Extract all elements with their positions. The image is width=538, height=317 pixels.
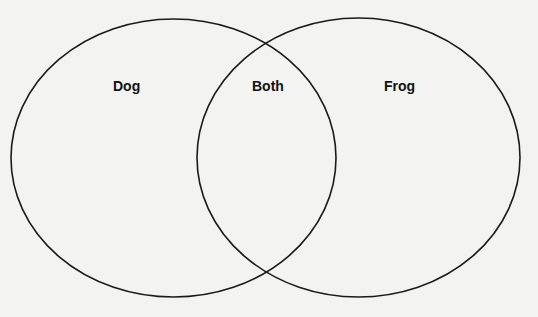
venn-diagram: Dog Both Frog xyxy=(0,0,538,317)
frog-set-outline xyxy=(197,18,520,297)
intersection-label: Both xyxy=(252,78,284,94)
dog-label: Dog xyxy=(113,78,140,94)
dog-set-outline xyxy=(11,19,336,297)
frog-label: Frog xyxy=(384,78,415,94)
